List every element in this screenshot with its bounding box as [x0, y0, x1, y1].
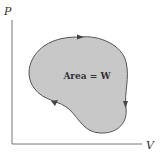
- cycle-region: [29, 37, 127, 133]
- pv-diagram: P V Area = W: [0, 0, 163, 155]
- y-axis-label: P: [3, 5, 12, 18]
- x-axis-label: V: [146, 139, 155, 152]
- arrow-up-left-icon: [51, 100, 58, 106]
- area-label: Area = W: [62, 71, 111, 81]
